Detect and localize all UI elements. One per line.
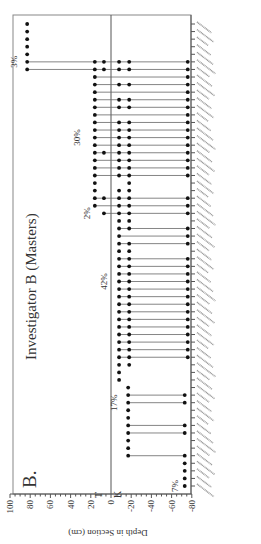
taxon-name: [197, 264, 208, 272]
occurrence-dot: [126, 446, 130, 450]
taxon-name: [197, 416, 208, 424]
occurrence-dot: [186, 166, 190, 170]
taxon-range: [117, 333, 189, 337]
chart-title: Investigator B (Masters): [23, 213, 40, 360]
taxon-range: [93, 83, 190, 87]
occurrence-dot: [117, 143, 121, 147]
occurrence-dot: [127, 317, 131, 321]
taxon-range: [117, 295, 189, 299]
occurrence-dot: [127, 249, 131, 253]
taxon-name: [197, 234, 215, 247]
taxon-name: [197, 401, 211, 412]
percent-annotation: 30%: [72, 129, 82, 146]
taxon-range: [93, 143, 190, 147]
taxon-name: [197, 242, 209, 251]
taxon-range: [93, 105, 190, 109]
occurrence-dot: [93, 105, 97, 109]
occurrence-dot: [126, 454, 130, 458]
taxon-range: [183, 477, 187, 481]
occurrence-dot: [186, 302, 190, 306]
axis-tick-label: 80: [25, 500, 35, 510]
occurrence-dot: [117, 317, 121, 321]
taxon-range: [93, 75, 190, 79]
occurrence-dot: [126, 393, 130, 397]
occurrence-dot: [25, 52, 29, 56]
taxon-range: [117, 249, 131, 253]
occurrence-dot: [127, 363, 131, 367]
occurrence-dot: [127, 196, 131, 200]
occurrence-dot: [186, 317, 190, 321]
taxon-name: [197, 136, 215, 150]
occurrence-dot: [186, 227, 190, 231]
occurrence-dot: [117, 105, 121, 109]
axis-tick-label: -40: [146, 500, 156, 512]
taxon-name: [197, 90, 209, 99]
taxon-ranges: [25, 22, 189, 488]
occurrence-dot: [102, 151, 106, 155]
taxon-range: [117, 234, 189, 238]
occurrence-dot: [93, 98, 97, 102]
occurrence-dot: [186, 83, 190, 87]
percent-annotation: 42%: [99, 273, 109, 290]
taxon-range: [117, 242, 189, 246]
occurrence-dot: [183, 393, 187, 397]
taxon-name: [197, 393, 209, 402]
occurrence-dot: [186, 272, 190, 276]
taxon-range: [126, 408, 130, 412]
taxon-range: [25, 37, 29, 41]
occurrence-dot: [186, 158, 190, 162]
occurrence-dot: [186, 242, 190, 246]
occurrence-dot: [183, 454, 187, 458]
occurrence-dot: [186, 75, 190, 79]
occurrence-dot: [127, 60, 131, 64]
occurrence-dot: [183, 484, 187, 488]
taxon-range: [93, 158, 190, 162]
occurrence-dot: [117, 158, 121, 162]
taxon-name: [197, 363, 215, 377]
occurrence-dot: [186, 280, 190, 284]
taxon-range: [93, 136, 190, 140]
taxon-name: [197, 249, 211, 260]
axis-tick-label: -20: [126, 500, 136, 512]
occurrence-dot: [93, 189, 97, 193]
occurrence-dot: [186, 121, 190, 125]
occurrence-dot: [93, 204, 97, 208]
occurrence-dot: [186, 174, 190, 178]
axis-tick-label: 20: [86, 500, 96, 510]
occurrence-dot: [127, 136, 131, 140]
taxon-range: [183, 484, 187, 488]
occurrence-dot: [93, 60, 97, 64]
occurrence-dot: [93, 136, 97, 140]
occurrence-dot: [127, 181, 131, 185]
occurrence-dot: [117, 227, 121, 231]
taxon-range: [25, 22, 29, 26]
occurrence-dot: [117, 325, 121, 329]
occurrence-dot: [186, 68, 190, 72]
occurrence-dot: [117, 333, 121, 337]
occurrence-dot: [25, 60, 29, 64]
taxon-range: [117, 310, 189, 314]
taxon-range: [93, 189, 131, 193]
taxon-range: [117, 325, 189, 329]
occurrence-dot: [127, 105, 131, 109]
occurrence-dot: [93, 166, 97, 170]
taxon-range: [183, 469, 187, 473]
occurrence-dot: [183, 431, 187, 435]
taxon-name: [197, 439, 215, 453]
kt-boundary: TK: [93, 15, 123, 498]
occurrence-dot: [117, 280, 121, 284]
occurrence-dot: [117, 68, 121, 72]
taxon-range: [117, 378, 121, 382]
occurrence-dot: [127, 219, 131, 223]
taxon-name: [197, 469, 209, 478]
occurrence-dot: [93, 90, 97, 94]
occurrence-dot: [117, 249, 121, 253]
occurrence-dot: [127, 121, 131, 125]
taxon-range: [183, 461, 187, 465]
occurrence-dot: [117, 60, 121, 64]
occurrence-dot: [127, 295, 131, 299]
taxon-name: [197, 105, 214, 118]
occurrence-dot: [127, 151, 131, 155]
occurrence-dot: [117, 98, 121, 102]
axis-tick-label: -80: [187, 500, 197, 512]
